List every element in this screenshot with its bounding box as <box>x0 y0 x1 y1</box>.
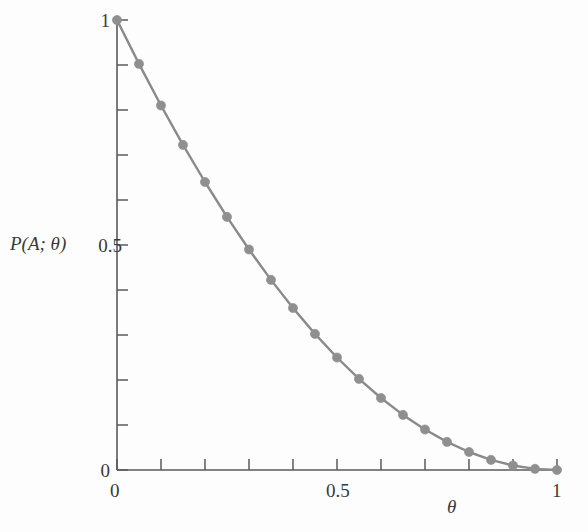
chart-figure: 1 0.5 0 0 0.5 1 P(A; θ) θ <box>0 0 588 532</box>
data-point <box>266 275 275 284</box>
data-point <box>376 393 385 402</box>
y-axis-title: P(A; θ) <box>10 234 66 253</box>
data-point <box>332 353 341 362</box>
y-tick-label-0: 0 <box>101 461 111 480</box>
data-point <box>486 455 495 464</box>
data-point <box>442 437 451 446</box>
data-point <box>464 447 473 456</box>
data-point <box>288 303 297 312</box>
data-point <box>134 59 143 68</box>
data-point <box>508 461 517 470</box>
x-tick-label-0.5: 0.5 <box>326 481 350 500</box>
data-point <box>420 425 429 434</box>
data-point <box>244 245 253 254</box>
data-point <box>222 212 231 221</box>
x-tick-label-1: 1 <box>552 481 562 500</box>
x-axis-title: θ <box>447 497 456 516</box>
data-point <box>310 329 319 338</box>
y-tick-label-0.5: 0.5 <box>98 236 122 255</box>
data-point <box>156 101 165 110</box>
data-point <box>354 374 363 383</box>
data-point <box>178 140 187 149</box>
x-tick-label-0: 0 <box>110 481 120 500</box>
data-point <box>398 410 407 419</box>
data-point <box>112 15 121 24</box>
data-point <box>530 464 539 473</box>
y-tick-label-1: 1 <box>101 11 111 30</box>
data-markers <box>112 15 561 474</box>
data-point <box>200 177 209 186</box>
plot-canvas <box>0 0 588 532</box>
data-line <box>117 20 557 470</box>
data-point <box>552 465 561 474</box>
axes-lines <box>117 18 559 470</box>
axis-ticks <box>117 20 557 470</box>
